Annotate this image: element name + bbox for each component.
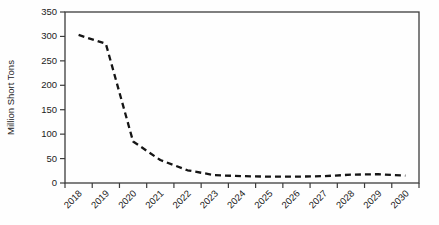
- x-axis-tick-label: 2027: [306, 188, 329, 211]
- x-axis-tick-label: 2023: [197, 188, 220, 211]
- y-axis-tick-label: 200: [41, 79, 57, 90]
- y-axis-tick-label: 100: [41, 128, 57, 139]
- y-axis-tick-label: 150: [41, 104, 57, 115]
- line-chart-figure: 0501001502002503003502018201920202021202…: [0, 0, 439, 225]
- x-axis-tick-label: 2024: [225, 188, 248, 211]
- y-axis-title: Million Short Tons: [5, 60, 16, 135]
- x-axis-tick-label: 2026: [279, 188, 302, 211]
- y-axis-tick-label: 300: [41, 30, 57, 41]
- data-line-projection: [79, 35, 406, 177]
- x-axis-tick-label: 2018: [61, 188, 84, 211]
- x-axis-tick-label: 2022: [170, 188, 193, 211]
- x-axis-tick-label: 2030: [388, 188, 411, 211]
- y-axis-tick-label: 250: [41, 55, 57, 66]
- x-axis-tick-label: 2028: [334, 188, 357, 211]
- line-chart: 0501001502002503003502018201920202021202…: [0, 0, 439, 225]
- x-axis-tick-label: 2019: [89, 188, 112, 211]
- y-axis-tick-label: 350: [41, 6, 57, 17]
- y-axis-tick-label: 0: [52, 177, 57, 188]
- plot-border: [65, 12, 419, 183]
- x-axis-tick-label: 2021: [143, 188, 166, 211]
- y-axis-tick-label: 50: [46, 153, 57, 164]
- screenshot-root: 0501001502002503003502018201920202021202…: [0, 0, 439, 225]
- x-axis-tick-label: 2025: [252, 188, 275, 211]
- x-axis-tick-label: 2020: [116, 188, 139, 211]
- x-axis-tick-label: 2029: [361, 188, 384, 211]
